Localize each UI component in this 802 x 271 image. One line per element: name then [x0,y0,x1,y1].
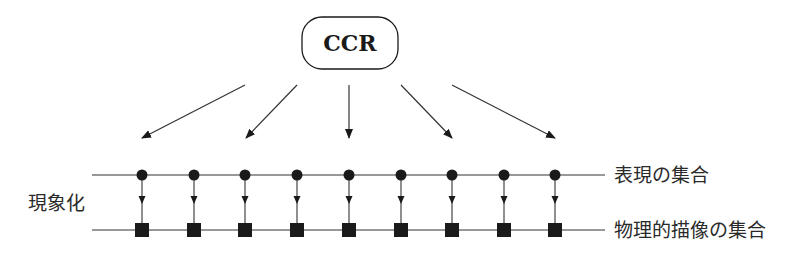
representation-node [396,170,407,181]
down-arrow-icon [346,196,353,204]
physical-node [238,223,252,237]
physical-node [497,223,511,237]
ccr-label: CCR [323,30,377,56]
representation-node [447,170,458,181]
node-column [394,170,408,238]
node-column [290,170,304,238]
down-arrow-icon [552,196,559,204]
down-arrow-icon [242,196,249,204]
representation-node [550,170,561,181]
down-arrow-icon [449,196,456,204]
down-arrow-icon [191,196,198,204]
physical-node [548,223,562,237]
representation-set-label: 表現の集合 [614,164,709,186]
down-arrow-icon [139,196,146,204]
representation-node [240,170,251,181]
physical-node [394,223,408,237]
node-columns [135,170,562,238]
phenomenalization-label: 現象化 [28,192,85,214]
down-arrow-icon [294,196,301,204]
fan-arrow-1 [142,85,245,138]
node-column [497,170,511,238]
fan-arrow-4 [401,85,452,138]
fan-arrows [142,85,555,138]
down-arrow-icon [398,196,405,204]
ccr-diagram: CCR [0,0,802,271]
down-arrow-icon [501,196,508,204]
physical-node [290,223,304,237]
representation-node [344,170,355,181]
ccr-node: CCR [302,17,398,69]
fan-arrow-2 [246,85,297,138]
fan-arrow-5 [452,85,555,138]
node-column [445,170,459,238]
physical-description-set-label: 物理的描像の集合 [614,219,766,241]
physical-node [445,223,459,237]
representation-node [292,170,303,181]
physical-node [187,223,201,237]
node-column [135,170,149,238]
physical-node [135,223,149,237]
representation-node [499,170,510,181]
representation-node [189,170,200,181]
physical-node [342,223,356,237]
node-column [187,170,201,238]
node-column [238,170,252,238]
node-column [548,170,562,238]
representation-node [137,170,148,181]
node-column [342,170,356,238]
